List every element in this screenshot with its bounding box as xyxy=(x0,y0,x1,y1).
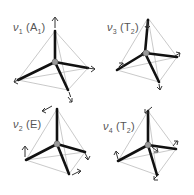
mode-panel-nu1: ν1 (A1) xyxy=(0,0,97,97)
tetrahedron-nu2 xyxy=(0,97,97,194)
center-atom xyxy=(143,50,149,56)
center-atom xyxy=(145,142,151,148)
tetrahedron-nu1 xyxy=(0,0,97,97)
center-atom xyxy=(52,59,58,65)
mode-panel-nu3: ν3 (T2) xyxy=(97,0,194,97)
mode-panel-nu4: ν4 (T2) xyxy=(97,97,194,194)
center-atom xyxy=(54,141,60,147)
tetrahedron-nu4 xyxy=(97,97,194,194)
mode-panel-nu2: ν2 (E) xyxy=(0,97,97,194)
tetrahedron-nu3 xyxy=(97,0,194,97)
